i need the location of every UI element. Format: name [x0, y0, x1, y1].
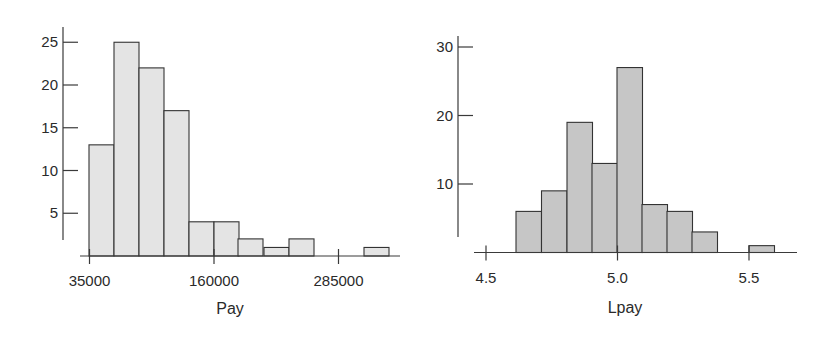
histogram-bar	[89, 145, 114, 256]
histogram-bar	[749, 246, 775, 253]
histogram-bar	[189, 222, 214, 256]
histogram-bar	[164, 111, 189, 256]
x-tick-label: 4.5	[476, 269, 497, 286]
histogram-bar	[214, 222, 239, 256]
y-tick-label: 5	[50, 204, 58, 221]
histogram-bar	[592, 163, 618, 252]
histogram-bar	[542, 191, 568, 253]
y-tick-label: 25	[41, 33, 58, 50]
x-tick-label: 160000	[189, 272, 239, 289]
y-tick-label: 15	[41, 119, 58, 136]
y-tick-label: 30	[436, 38, 453, 55]
lpay-histogram: 1020304.55.05.5Lpay	[436, 36, 797, 316]
x-tick-label: 285000	[313, 272, 363, 289]
x-axis-title: Pay	[216, 300, 244, 317]
y-tick-label: 10	[436, 175, 453, 192]
pay-histogram: 51015202535000160000285000Pay	[41, 27, 400, 317]
histogram-bar	[289, 239, 314, 256]
histogram-bar	[364, 247, 389, 256]
y-tick-label: 20	[436, 107, 453, 124]
histogram-bar	[692, 232, 718, 253]
x-tick-label: 5.5	[739, 269, 760, 286]
chart-canvas: 51015202535000160000285000Pay 1020304.55…	[0, 0, 829, 348]
histogram-bar	[516, 211, 542, 252]
histogram-bar	[567, 122, 593, 252]
x-tick-label: 35000	[69, 272, 111, 289]
y-tick-label: 20	[41, 76, 58, 93]
y-tick-label: 10	[41, 162, 58, 179]
histogram-bar	[642, 205, 668, 253]
histogram-bar	[667, 211, 693, 252]
histogram-bar	[617, 68, 643, 253]
x-axis-title: Lpay	[608, 299, 643, 316]
histogram-bar	[264, 247, 289, 256]
histogram-bar	[139, 68, 164, 256]
histogram-bar	[238, 239, 263, 256]
x-tick-label: 5.0	[607, 269, 628, 286]
histogram-bar	[114, 42, 139, 256]
